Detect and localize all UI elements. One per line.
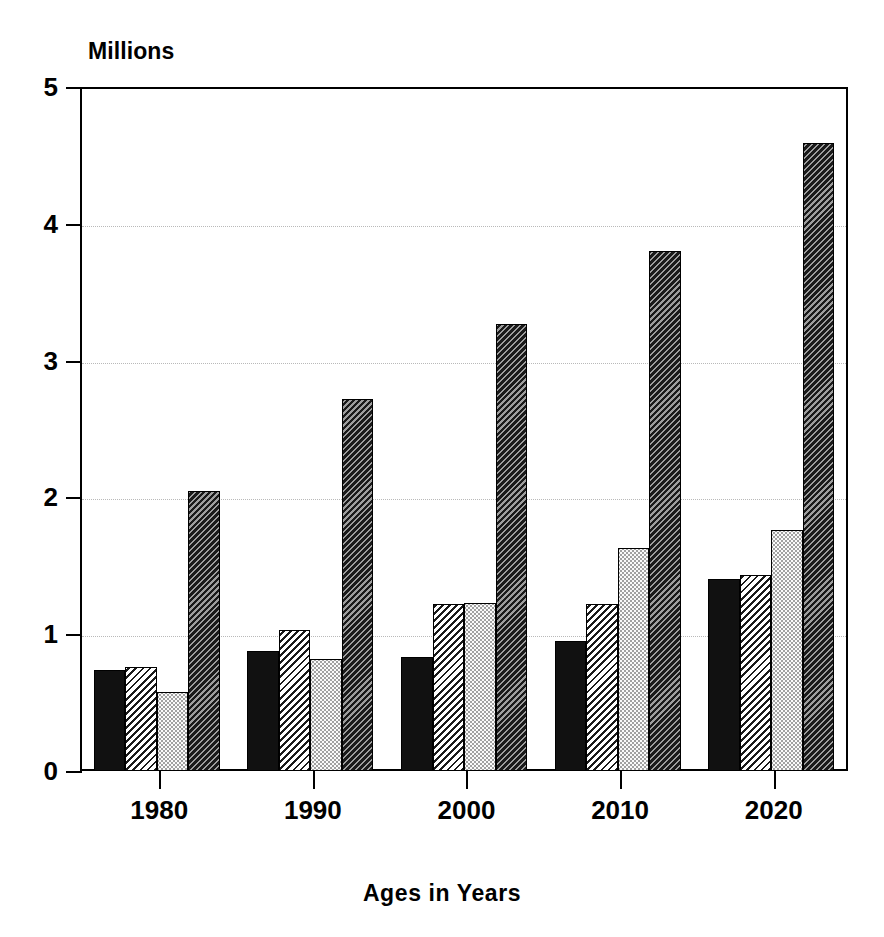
bars-layer (80, 87, 848, 771)
y-axis-tick-label: 2 (18, 484, 58, 510)
y-axis-tick-label: 1 (18, 621, 58, 647)
bar (125, 667, 157, 771)
y-axis-title: Millions (88, 38, 174, 65)
bar (433, 604, 465, 771)
bar (771, 530, 803, 771)
bar (342, 399, 374, 771)
bar (496, 324, 528, 771)
x-axis-tick-label: 2000 (406, 797, 526, 823)
x-axis-tick (620, 771, 622, 789)
bar (555, 641, 587, 771)
bar (188, 491, 220, 771)
bar (401, 657, 433, 771)
bar (618, 548, 650, 771)
x-axis-tick (466, 771, 468, 789)
bar (649, 251, 681, 771)
y-axis-tick-label: 3 (18, 348, 58, 374)
bar (586, 604, 618, 771)
bar (464, 603, 496, 771)
x-axis-tick (159, 771, 161, 789)
bar (740, 575, 772, 771)
x-axis-tick-label: 1990 (253, 797, 373, 823)
x-axis-tick-label: 1980 (99, 797, 219, 823)
bar (94, 670, 126, 771)
x-axis-tick-label: 2020 (714, 797, 834, 823)
x-axis-tick (774, 771, 776, 789)
x-axis-tick (313, 771, 315, 789)
bar (310, 659, 342, 771)
bar (157, 692, 189, 771)
y-axis-tick (66, 771, 82, 773)
y-axis-tick-label: 0 (18, 758, 58, 784)
bar (279, 630, 311, 771)
bar (803, 143, 835, 771)
y-axis-tick-label: 4 (18, 211, 58, 237)
x-axis-title: Ages in Years (0, 880, 884, 907)
x-axis-tick-label: 2010 (560, 797, 680, 823)
bar-chart: Millions 012345 19801990200020102020 Age… (0, 0, 884, 937)
bar (247, 651, 279, 771)
y-axis-tick-label: 5 (18, 74, 58, 100)
bar (708, 579, 740, 771)
